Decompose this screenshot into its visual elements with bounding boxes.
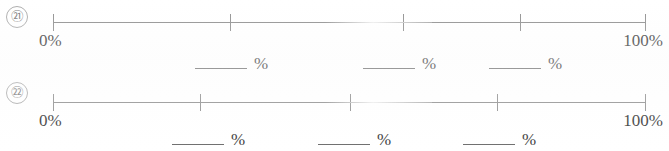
tick-mark-20-4 xyxy=(645,14,646,31)
percent-sign-21-2: % xyxy=(522,130,536,150)
tick-mark-21-1 xyxy=(200,94,201,111)
answer-blank-input-20-2[interactable] xyxy=(489,57,541,69)
answer-blank-input-20-1[interactable] xyxy=(363,57,415,69)
answer-blank-21-0[interactable]: % xyxy=(172,130,245,150)
answer-blank-input-20-0[interactable] xyxy=(195,57,247,69)
answer-blank-21-2[interactable]: % xyxy=(463,130,536,150)
tick-mark-21-3 xyxy=(497,94,498,111)
tick-mark-21-4 xyxy=(645,94,646,111)
answer-blanks-row-20: %%% xyxy=(0,54,669,76)
scale-label-right-20: 100% xyxy=(623,31,663,51)
answer-blank-21-1[interactable]: % xyxy=(318,130,391,150)
answer-blank-input-21-2[interactable] xyxy=(463,133,515,145)
scale-label-left-20: 0% xyxy=(39,31,62,51)
answer-blank-input-21-1[interactable] xyxy=(318,133,370,145)
percent-sign-20-1: % xyxy=(422,54,436,74)
percent-sign-20-0: % xyxy=(254,54,268,74)
answer-blank-20-1[interactable]: % xyxy=(363,54,436,74)
tick-mark-20-0 xyxy=(53,14,54,31)
tick-mark-20-1 xyxy=(230,14,231,31)
item-number-badge-21: ㉒ xyxy=(6,82,28,104)
worksheet-page: ㉑ 0% 100% %%% ㉒ 0% 100% %%% xyxy=(0,0,669,151)
scale-label-left-21: 0% xyxy=(39,111,62,131)
tick-mark-20-2 xyxy=(403,14,404,31)
percent-sign-21-1: % xyxy=(377,130,391,150)
number-line-20 xyxy=(53,22,645,23)
percent-sign-20-2: % xyxy=(548,54,562,74)
answer-blank-input-21-0[interactable] xyxy=(172,133,224,145)
tick-mark-20-3 xyxy=(520,14,521,31)
answer-blank-20-0[interactable]: % xyxy=(195,54,268,74)
number-line-21 xyxy=(53,102,645,103)
answer-blank-20-2[interactable]: % xyxy=(489,54,562,74)
item-number-badge-20: ㉑ xyxy=(6,6,28,28)
exercise-item-20: ㉑ 0% 100% %%% xyxy=(0,0,669,79)
exercise-item-21: ㉒ 0% 100% %%% xyxy=(0,79,669,151)
tick-mark-21-2 xyxy=(350,94,351,111)
scale-label-right-21: 100% xyxy=(623,111,663,131)
tick-mark-21-0 xyxy=(53,94,54,111)
answer-blanks-row-21: %%% xyxy=(0,130,669,151)
percent-sign-21-0: % xyxy=(231,130,245,150)
